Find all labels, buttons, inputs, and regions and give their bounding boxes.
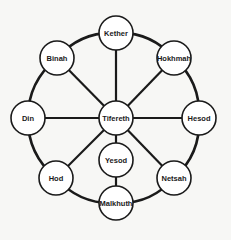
node-label-din: Din	[22, 114, 34, 123]
node-label-binah: Binah	[47, 54, 68, 63]
node-label-hesod: Hesod	[188, 114, 211, 123]
node-label-netsah: Netsah	[161, 174, 186, 183]
node-label-kether: Kether	[104, 29, 128, 38]
node-label-hod: Hod	[49, 174, 64, 183]
node-label-hokhmah: Hokhmah	[157, 54, 191, 63]
node-label-malkhuth: Malkhuth	[100, 199, 133, 208]
node-label-yesod: Yesod	[105, 156, 127, 165]
node-label-tifereth: Tifereth	[102, 114, 129, 123]
